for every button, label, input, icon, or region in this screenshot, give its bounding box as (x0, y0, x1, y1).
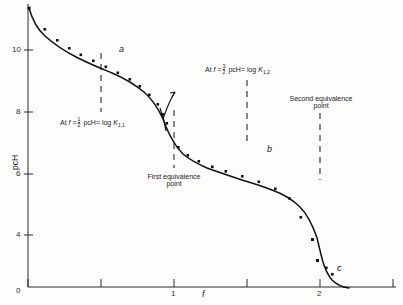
ann1-frac-den: 2 (78, 122, 81, 128)
curve-label-a: a (119, 44, 124, 54)
ann2-var: f (214, 66, 216, 73)
ann1-fraction: 12 (78, 117, 81, 129)
ann2-eq2: = (241, 66, 245, 73)
ann2-eq: = (217, 66, 221, 73)
ann2-prefix: At (205, 66, 212, 73)
second-equiv-line1: Second equivalence (274, 95, 368, 102)
ann2-k-subscript: 1,2 (263, 69, 270, 75)
ann1-eq: = (72, 119, 76, 126)
annotation-half-equivalence-second: At f =32 pcH= log K1,2 (205, 64, 270, 76)
ann1-var: f (69, 119, 71, 126)
ann2-fraction: 32 (223, 64, 226, 76)
x-axis-title: f (202, 289, 205, 299)
ann1-mid: pcH (83, 119, 95, 126)
ann2-log: log (247, 66, 256, 73)
y-tick-label-6: 6 (16, 169, 20, 178)
ann2-mid: pcH (228, 66, 240, 73)
x-tick-label-2: 2 (317, 289, 321, 298)
y-tick-label-4: 4 (16, 230, 20, 239)
annotation-first-equivalence-point: First equivalence point (131, 173, 217, 187)
y-tick-label-0: 0 (16, 286, 20, 295)
curve-label-c: c (337, 263, 342, 273)
titration-curve (29, 8, 349, 288)
ann1-eq2: = (96, 119, 100, 126)
ann1-prefix: At (60, 119, 67, 126)
y-axis-title: pcH (10, 155, 20, 170)
y-tick-label-8: 8 (16, 107, 20, 116)
annotation-half-equivalence-first: At f =12 pcH= log K1,1 (60, 117, 125, 129)
ann1-k-subscript: 1,1 (118, 122, 125, 128)
inflection-branch-arrowhead (170, 92, 175, 97)
annotation-second-equivalence-point: Second equivalence point (274, 95, 368, 109)
titration-chart-figure: 10 8 6 4 0 1 2 pcH f a b c At f =12 pcH=… (0, 0, 403, 305)
y-tick-label-10: 10 (12, 45, 21, 54)
data-point-markers (28, 7, 334, 276)
second-equiv-line2: point (274, 102, 368, 109)
chart-canvas (0, 0, 403, 305)
curve-label-b: b (267, 144, 272, 154)
x-tick-label-1: 1 (171, 289, 175, 298)
first-equiv-line1: First equivalence (131, 173, 217, 180)
ann1-log: log (102, 119, 111, 126)
ann2-frac-den: 2 (223, 69, 226, 75)
first-equiv-line2: point (131, 180, 217, 187)
x-axis-ticks (28, 279, 393, 287)
